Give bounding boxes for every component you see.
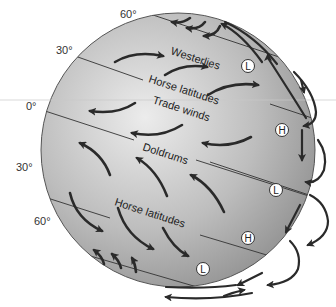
wind-belts-diagram: 60° 30° 0° 30° 60° Westerlies Horse lati… [0, 0, 336, 307]
latitude-label-0: 0° [26, 100, 37, 112]
pressure-marker-l1: L [242, 60, 255, 73]
pressure-marker-label: H [278, 125, 285, 136]
pressure-marker-l3: L [197, 263, 210, 276]
pressure-marker-l2: L [270, 184, 283, 197]
latitude-label-60s: 60° [34, 215, 51, 227]
latitude-label-30s: 30° [16, 161, 33, 173]
pressure-marker-label: L [200, 264, 206, 275]
latitude-label-60n: 60° [120, 8, 137, 20]
pressure-marker-label: L [273, 185, 279, 196]
latitude-label-30n: 30° [56, 44, 73, 56]
pressure-marker-label: H [244, 233, 251, 244]
pressure-marker-h1: H [276, 124, 289, 137]
pressure-marker-label: L [245, 61, 251, 72]
pressure-marker-h2: H [242, 232, 255, 245]
